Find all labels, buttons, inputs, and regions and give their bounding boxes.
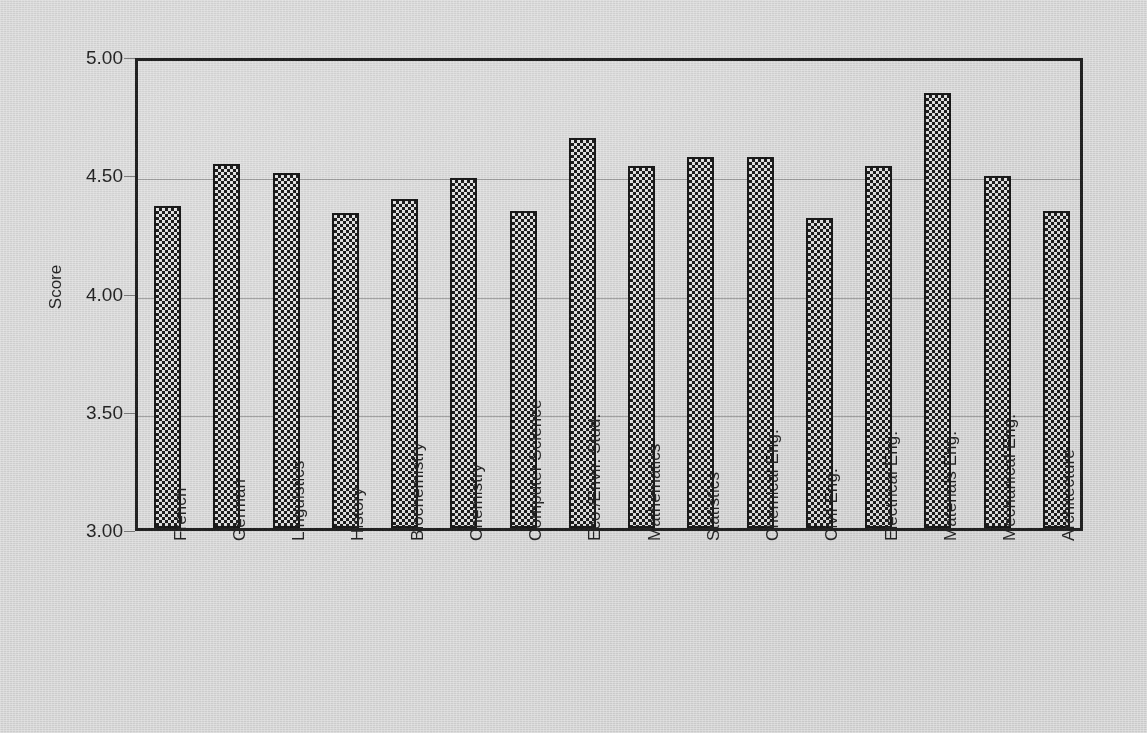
bar xyxy=(984,176,1011,528)
y-axis-tick-mark xyxy=(124,58,135,59)
y-axis-tick-label: 4.00 xyxy=(53,284,123,306)
y-axis-tick-label: 5.00 xyxy=(53,47,123,69)
bar xyxy=(569,138,596,528)
y-axis-tick-label: 4.50 xyxy=(53,165,123,187)
y-axis-tick-mark xyxy=(124,531,135,532)
bar xyxy=(806,218,833,528)
bar xyxy=(391,199,418,528)
plot-area xyxy=(135,58,1083,531)
bar xyxy=(213,164,240,528)
bar xyxy=(628,166,655,528)
bar xyxy=(450,178,477,528)
bar xyxy=(273,173,300,528)
bar xyxy=(1043,211,1070,528)
bar xyxy=(865,166,892,528)
y-axis-tick-mark xyxy=(124,176,135,177)
bar xyxy=(924,93,951,528)
y-axis-tick-label: 3.00 xyxy=(53,520,123,542)
bar xyxy=(687,157,714,528)
bar xyxy=(332,213,359,528)
y-axis-tick-mark xyxy=(124,413,135,414)
plot-inner xyxy=(138,61,1080,528)
y-axis-tick-mark xyxy=(124,295,135,296)
bar xyxy=(510,211,537,528)
y-axis-tick-label: 3.50 xyxy=(53,402,123,424)
bar xyxy=(747,157,774,528)
bar-chart-figure: Score 5.004.504.003.503.00 FrenchGermanL… xyxy=(0,0,1147,733)
bar xyxy=(154,206,181,528)
